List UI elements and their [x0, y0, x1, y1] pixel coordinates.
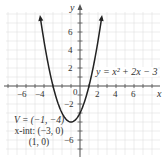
y-tick-label: 2: [68, 64, 73, 73]
y-tick-label: −2: [64, 100, 74, 109]
x-intercept-label-2: (1, 0): [2, 138, 76, 148]
y-axis-label: y: [70, 3, 74, 13]
vertex-label: V = (−1, −4): [4, 116, 74, 126]
x-tick-label: −4: [35, 90, 45, 99]
x-intercept-label: x-int: (−3, 0): [2, 127, 76, 137]
equation-label: y = x² + 2x − 3: [96, 67, 158, 77]
x-tick-label: 4: [113, 90, 118, 99]
x-tick-label: −6: [17, 90, 27, 99]
x-axis-label: x: [157, 89, 161, 99]
y-tick-label: 6: [68, 28, 73, 37]
x-tick-label: 6: [131, 90, 136, 99]
y-tick-label: 4: [68, 46, 73, 55]
origin-label: 0: [73, 88, 78, 97]
x-tick-label: 2: [95, 90, 100, 99]
